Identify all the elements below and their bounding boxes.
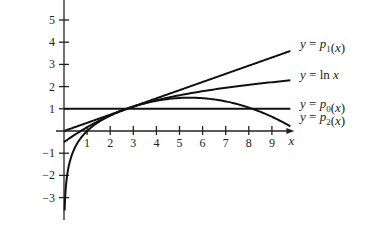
y-tick-label: 2 xyxy=(49,80,55,94)
y-tick-label: 1 xyxy=(49,102,55,116)
x-tick-label: 2 xyxy=(107,136,113,150)
x-tick-label: 7 xyxy=(223,136,229,150)
x-tick-label: 8 xyxy=(246,136,252,150)
y-tick-label: −3 xyxy=(42,191,55,205)
curve-label: y = p1(x) xyxy=(298,36,345,55)
y-tick-label: −1 xyxy=(42,146,55,160)
x-tick-label: 6 xyxy=(200,136,206,150)
y-tick-label: −2 xyxy=(42,168,55,182)
y-tick-label: 5 xyxy=(49,13,55,27)
curve-0 xyxy=(64,51,290,131)
x-tick-label: 3 xyxy=(130,136,136,150)
y-tick-label: 4 xyxy=(49,35,55,49)
y-tick-label: 3 xyxy=(49,57,55,71)
chart-canvas: 123456789x54321−1−2−3 y = p1(x)y = ln xy… xyxy=(0,0,367,231)
x-axis-label: x xyxy=(287,133,294,148)
x-tick-label: 1 xyxy=(84,136,90,150)
x-tick-label: 4 xyxy=(153,136,159,150)
x-tick-label: 9 xyxy=(269,136,275,150)
x-tick-label: 5 xyxy=(177,136,183,150)
curve-labels: y = p1(x)y = ln xy = p0(x)y = p2(x) xyxy=(298,36,345,128)
curve-label: y = ln x xyxy=(298,67,339,82)
